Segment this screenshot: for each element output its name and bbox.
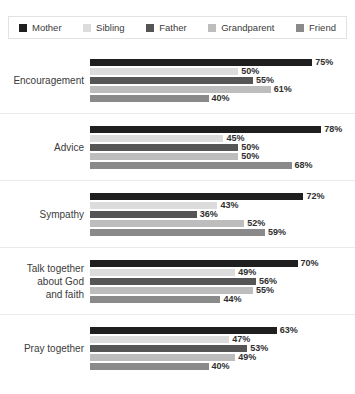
bar-sibling[interactable] bbox=[90, 336, 229, 343]
category-label-line: Pray together bbox=[0, 342, 84, 355]
category-label-line: Sympathy bbox=[0, 208, 84, 221]
legend-item-sibling[interactable]: Sibling bbox=[83, 23, 125, 33]
bar-friend[interactable] bbox=[90, 95, 209, 102]
bar-row: 70% bbox=[90, 259, 355, 268]
bar-row: 78% bbox=[90, 125, 355, 134]
legend-swatch-icon bbox=[19, 24, 27, 32]
legend-item-label: Friend bbox=[309, 23, 336, 33]
bar-row: 50% bbox=[90, 67, 355, 76]
bar-mother[interactable] bbox=[90, 59, 312, 66]
bar-row: 47% bbox=[90, 335, 355, 344]
bar-friend[interactable] bbox=[90, 296, 220, 303]
bar-track-group: 70%49%56%55%44% bbox=[90, 257, 355, 306]
bar-grandparent[interactable] bbox=[90, 86, 271, 93]
bar-value-label: 75% bbox=[315, 58, 333, 67]
legend-swatch-icon bbox=[83, 24, 91, 32]
bar-row: 36% bbox=[90, 210, 355, 219]
legend-swatch-icon bbox=[296, 24, 304, 32]
bar-sibling[interactable] bbox=[90, 135, 223, 142]
bar-father[interactable] bbox=[90, 345, 247, 352]
legend-item-label: Sibling bbox=[96, 23, 125, 33]
category-label: Talk togetherabout Godand faith bbox=[0, 262, 90, 301]
bar-row: 56% bbox=[90, 277, 355, 286]
bar-father[interactable] bbox=[90, 144, 238, 151]
bar-row: 40% bbox=[90, 362, 355, 371]
chart-group: Talk togetherabout Godand faith70%49%56%… bbox=[0, 248, 355, 315]
bar-value-label: 47% bbox=[232, 335, 250, 344]
bar-value-label: 36% bbox=[200, 210, 218, 219]
bar-value-label: 61% bbox=[274, 85, 292, 94]
bar-row: 40% bbox=[90, 94, 355, 103]
chart-group: Advice78%45%50%50%68% bbox=[0, 114, 355, 181]
category-label: Sympathy bbox=[0, 208, 90, 221]
chart-group: Pray together63%47%53%49%40% bbox=[0, 315, 355, 382]
bar-mother[interactable] bbox=[90, 126, 321, 133]
bar-row: 50% bbox=[90, 152, 355, 161]
bar-father[interactable] bbox=[90, 278, 256, 285]
bar-grandparent[interactable] bbox=[90, 220, 244, 227]
bar-friend[interactable] bbox=[90, 363, 209, 370]
bar-value-label: 43% bbox=[220, 201, 238, 210]
category-label-line: and faith bbox=[0, 288, 84, 301]
bar-value-label: 52% bbox=[247, 219, 265, 228]
bar-row: 43% bbox=[90, 201, 355, 210]
bar-value-label: 78% bbox=[324, 125, 342, 134]
bar-value-label: 49% bbox=[238, 353, 256, 362]
category-label: Advice bbox=[0, 141, 90, 154]
bar-track-group: 72%43%36%52%59% bbox=[90, 190, 355, 239]
bar-track-group: 75%50%55%61%40% bbox=[90, 56, 355, 105]
category-label-line: about God bbox=[0, 275, 84, 288]
legend-item-label: Mother bbox=[32, 23, 62, 33]
bar-value-label: 68% bbox=[295, 161, 313, 170]
bar-value-label: 55% bbox=[256, 76, 274, 85]
bar-friend[interactable] bbox=[90, 162, 292, 169]
bar-sibling[interactable] bbox=[90, 202, 217, 209]
bar-row: 53% bbox=[90, 344, 355, 353]
category-label: Encouragement bbox=[0, 74, 90, 87]
chart-legend: MotherSiblingFatherGrandparentFriend bbox=[8, 16, 347, 39]
bar-father[interactable] bbox=[90, 77, 253, 84]
bar-row: 68% bbox=[90, 161, 355, 170]
bar-track-group: 63%47%53%49%40% bbox=[90, 324, 355, 373]
category-label-line: Advice bbox=[0, 141, 84, 154]
legend-item-grandparent[interactable]: Grandparent bbox=[208, 23, 274, 33]
bar-row: 44% bbox=[90, 295, 355, 304]
bar-row: 59% bbox=[90, 228, 355, 237]
bar-grandparent[interactable] bbox=[90, 153, 238, 160]
legend-item-father[interactable]: Father bbox=[146, 23, 186, 33]
chart-group: Sympathy72%43%36%52%59% bbox=[0, 181, 355, 248]
bar-father[interactable] bbox=[90, 211, 197, 218]
bar-grandparent[interactable] bbox=[90, 354, 235, 361]
bar-mother[interactable] bbox=[90, 260, 298, 267]
bar-row: 75% bbox=[90, 58, 355, 67]
bar-sibling[interactable] bbox=[90, 68, 238, 75]
bar-sibling[interactable] bbox=[90, 269, 235, 276]
bar-mother[interactable] bbox=[90, 193, 303, 200]
bar-value-label: 49% bbox=[238, 268, 256, 277]
category-label-line: Encouragement bbox=[0, 74, 84, 87]
bar-value-label: 70% bbox=[301, 259, 319, 268]
legend-item-label: Grandparent bbox=[221, 23, 274, 33]
bar-grandparent[interactable] bbox=[90, 287, 253, 294]
grouped-bar-chart: MotherSiblingFatherGrandparentFriend Enc… bbox=[0, 0, 355, 394]
bar-row: 50% bbox=[90, 143, 355, 152]
bar-row: 52% bbox=[90, 219, 355, 228]
bar-value-label: 40% bbox=[212, 362, 230, 371]
legend-item-friend[interactable]: Friend bbox=[296, 23, 336, 33]
legend-swatch-icon bbox=[208, 24, 216, 32]
bar-value-label: 50% bbox=[241, 152, 259, 161]
bar-row: 45% bbox=[90, 134, 355, 143]
bar-mother[interactable] bbox=[90, 327, 277, 334]
bar-track-group: 78%45%50%50%68% bbox=[90, 123, 355, 172]
legend-item-label: Father bbox=[159, 23, 186, 33]
bar-friend[interactable] bbox=[90, 229, 265, 236]
category-label: Pray together bbox=[0, 342, 90, 355]
bar-value-label: 40% bbox=[212, 94, 230, 103]
category-label-line: Talk together bbox=[0, 262, 84, 275]
legend-item-mother[interactable]: Mother bbox=[19, 23, 62, 33]
bar-value-label: 44% bbox=[223, 295, 241, 304]
chart-group: Encouragement75%50%55%61%40% bbox=[0, 47, 355, 114]
bar-value-label: 63% bbox=[280, 326, 298, 335]
legend-swatch-icon bbox=[146, 24, 154, 32]
bar-value-label: 72% bbox=[306, 192, 324, 201]
